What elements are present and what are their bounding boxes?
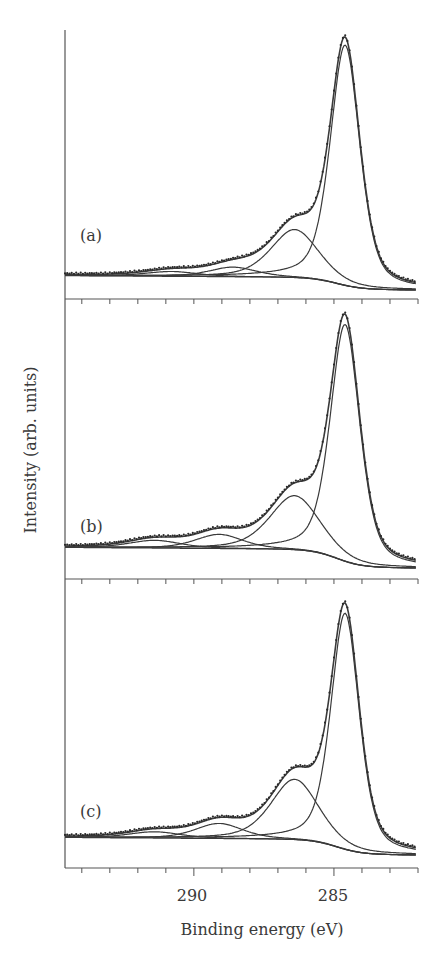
measured-data-points — [64, 600, 416, 847]
x-tick-label-290: 290 — [177, 886, 208, 905]
panel-label-c: (c) — [80, 802, 101, 821]
x-tick-label-285: 285 — [318, 886, 349, 905]
panel-label-a: (a) — [80, 226, 102, 245]
panel-label-b: (b) — [80, 517, 103, 536]
measured-data-points — [64, 34, 416, 282]
component-peak-2 — [65, 230, 416, 289]
x-axis-label: Binding energy (eV) — [181, 920, 344, 939]
component-peak-4 — [65, 540, 416, 568]
component-peak-2 — [65, 496, 416, 567]
component-peak-3 — [65, 534, 416, 567]
component-peak-1 — [65, 613, 416, 849]
envelope-fit-line — [65, 314, 416, 560]
envelope-fit-line — [65, 603, 416, 848]
measured-data-points — [64, 311, 416, 560]
xps-c1s-chart — [0, 0, 442, 957]
y-axis-label: Intensity (arb. units) — [21, 366, 40, 533]
component-peak-4 — [65, 832, 416, 855]
envelope-fit-line — [65, 37, 416, 283]
